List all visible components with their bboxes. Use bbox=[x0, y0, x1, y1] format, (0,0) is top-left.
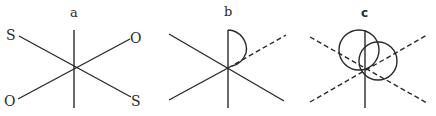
atom-label-o-upper-right: O bbox=[130, 30, 141, 46]
bond-line-s-s bbox=[19, 36, 131, 97]
semicircle-lobe bbox=[228, 30, 246, 66]
solid-half-diagonal-line bbox=[169, 68, 228, 100]
panel-c-label: c bbox=[361, 6, 368, 20]
atom-label-o-lower-left: O bbox=[4, 93, 15, 109]
panel-a-label: a bbox=[70, 5, 78, 20]
atom-label-s-upper-left: S bbox=[6, 27, 16, 43]
panel-b: b bbox=[169, 4, 286, 108]
dashed-half-diagonal-line bbox=[228, 35, 286, 68]
atom-label-s-lower-right: S bbox=[131, 93, 141, 109]
dashed-diagonal-line-1 bbox=[310, 37, 427, 103]
panel-c: c bbox=[310, 6, 427, 108]
panel-a: a S O O S bbox=[4, 5, 141, 109]
panel-b-label: b bbox=[224, 4, 232, 19]
stereo-diagram: a S O O S b c bbox=[0, 0, 436, 116]
